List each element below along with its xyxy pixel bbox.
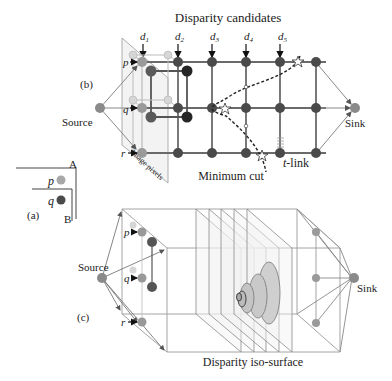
node-p bbox=[137, 57, 147, 67]
iso-surface-label: Disparity iso-surface bbox=[203, 355, 303, 369]
minimum-cut-curve bbox=[212, 56, 300, 172]
label-p-a: p bbox=[47, 174, 54, 188]
source-node bbox=[95, 103, 105, 113]
source-label-c: Source bbox=[78, 261, 109, 273]
label-q: q bbox=[123, 103, 129, 115]
sink-label-b: Sink bbox=[345, 117, 366, 129]
node-q-c bbox=[138, 274, 147, 283]
panel-c: p q r Source Sink (c) Disparity iso-surf… bbox=[77, 209, 378, 369]
region-a-boundary bbox=[16, 168, 76, 219]
disparity-label-d3: d3 bbox=[210, 30, 220, 44]
label-p: p bbox=[122, 56, 129, 68]
node-p-c bbox=[138, 228, 147, 237]
graph-cut-stereo-figure: Disparity candidates d1 d2 d3 d4 d5 Imag… bbox=[0, 0, 392, 381]
minimum-cut-label: Minimum cut bbox=[198, 169, 264, 183]
pixel-pointers-c: p q r bbox=[121, 226, 137, 328]
panel-b: Disparity candidates d1 d2 d3 d4 d5 Imag… bbox=[62, 10, 366, 183]
panel-c-label: (c) bbox=[77, 311, 90, 324]
panel-a-label: (a) bbox=[27, 209, 40, 222]
label-r: r bbox=[121, 147, 126, 159]
label-p-c: p bbox=[123, 226, 130, 238]
source-label-b: Source bbox=[62, 116, 93, 128]
sink-edges-c bbox=[297, 209, 352, 352]
source-node-c bbox=[97, 273, 107, 283]
disparity-candidates-title: Disparity candidates bbox=[175, 10, 282, 25]
label-q-a: q bbox=[48, 194, 54, 208]
label-r-c: r bbox=[121, 316, 126, 328]
disparity-labels: d1 d2 d3 d4 d5 bbox=[140, 30, 288, 57]
source-edges-c bbox=[102, 212, 164, 350]
sink-edges bbox=[319, 66, 351, 150]
t-link-label: t-link bbox=[283, 156, 309, 170]
corner-b-label: B bbox=[64, 213, 71, 225]
panel-b-label: (b) bbox=[80, 78, 93, 91]
grid-edges bbox=[142, 62, 326, 153]
pixel-p-a bbox=[57, 176, 66, 185]
disparity-label-d5: d5 bbox=[278, 30, 288, 44]
corner-a-label: A bbox=[69, 158, 77, 170]
disparity-label-d4: d4 bbox=[244, 30, 254, 44]
label-q-c: q bbox=[124, 272, 130, 284]
node-r-c bbox=[138, 318, 147, 327]
sink-node bbox=[350, 103, 360, 113]
panel-a: A B p q (a) bbox=[16, 158, 77, 225]
right-end bbox=[297, 209, 340, 323]
pixel-q-a bbox=[57, 196, 66, 205]
node-q bbox=[137, 103, 147, 113]
disparity-label-d1: d1 bbox=[140, 30, 149, 44]
node-r bbox=[137, 148, 147, 158]
disparity-label-d2: d2 bbox=[175, 30, 185, 44]
sink-label-c: Sink bbox=[357, 282, 378, 294]
